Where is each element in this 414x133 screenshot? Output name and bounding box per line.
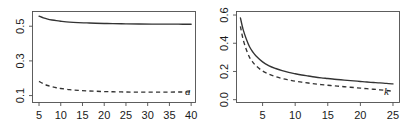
y-tick-label: 0.1: [15, 88, 27, 103]
x-tick-label: 35: [163, 109, 175, 121]
left-plot-axes: 0.10.30.5 510152025303540: [15, 12, 198, 121]
left-plot-curves: [39, 16, 191, 92]
right-plot-svg: 0.00.20.40.6 510152025 k: [207, 0, 414, 133]
chart-panel-left: 0.10.30.5 510152025303540 a: [0, 0, 207, 133]
x-axis-ticks: [39, 103, 191, 107]
x-tick-label: 15: [76, 109, 88, 121]
y-axis-tick-labels: 0.00.20.40.6: [219, 7, 231, 107]
x-axis-tick-labels: 510152025: [260, 109, 400, 121]
y-tick-label: 0.3: [15, 53, 27, 68]
x-tick-label: 25: [120, 109, 132, 121]
left-plot-svg: 0.10.30.5 510152025303540 a: [0, 0, 207, 133]
x-tick-label: 25: [387, 109, 399, 121]
axis-variable-label: a: [185, 85, 191, 97]
y-tick-label: 0.2: [219, 64, 231, 79]
y-tick-label: 0.0: [219, 92, 231, 107]
right-plot-axes: 0.00.20.40.6 510152025: [219, 7, 400, 120]
right-plot-curves: [240, 18, 393, 91]
x-tick-label: 5: [36, 109, 42, 121]
left-axis-title-annotations: a: [185, 85, 191, 97]
figure-two-panel-line-plots: 0.10.30.5 510152025303540 a 0.00.20.40.6…: [0, 0, 414, 133]
x-tick-label: 10: [55, 109, 67, 121]
x-tick-label: 30: [142, 109, 154, 121]
solid-curve: [39, 16, 191, 24]
x-tick-label: 20: [354, 109, 366, 121]
y-tick-label: 0.5: [15, 19, 27, 34]
x-tick-label: 10: [289, 109, 301, 121]
y-axis-ticks: [29, 26, 33, 95]
y-axis-tick-labels: 0.10.30.5: [15, 19, 27, 104]
y-tick-label: 0.4: [219, 36, 231, 51]
plot-frame: [33, 12, 196, 103]
x-tick-label: 40: [185, 109, 197, 121]
y-axis-ticks: [233, 15, 237, 100]
x-axis-tick-labels: 510152025303540: [36, 109, 197, 121]
dashed-curve: [240, 26, 393, 91]
x-tick-label: 20: [98, 109, 110, 121]
x-axis-ticks: [263, 103, 393, 107]
x-tick-label: 15: [322, 109, 334, 121]
x-tick-label: 5: [260, 109, 266, 121]
chart-panel-right: 0.00.20.40.6 510152025 k: [207, 0, 414, 133]
y-tick-label: 0.6: [219, 7, 231, 22]
dashed-curve: [39, 81, 191, 92]
solid-curve: [240, 18, 393, 84]
